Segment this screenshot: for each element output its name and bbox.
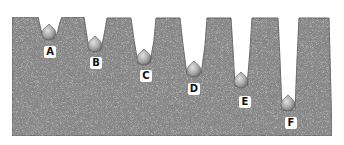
soil-highlight-speckle [12, 17, 332, 136]
bulb-d-icon [187, 61, 201, 77]
bulb-label-f: F [285, 117, 297, 129]
bulb-f-icon [281, 95, 295, 111]
bulb-b-icon [88, 36, 102, 52]
bulb-label-b: B [90, 57, 102, 69]
bulb-label-e: E [239, 96, 251, 108]
bulb-e-icon [234, 72, 248, 88]
bulb-label-d: D [188, 83, 200, 95]
bulb-label-c: C [140, 70, 152, 82]
bulb-c-icon [137, 49, 151, 65]
soil-cross-section-diagram: A B C D E F [0, 0, 344, 145]
bulb-a-icon [42, 24, 56, 40]
bulb-label-a: A [44, 46, 56, 58]
